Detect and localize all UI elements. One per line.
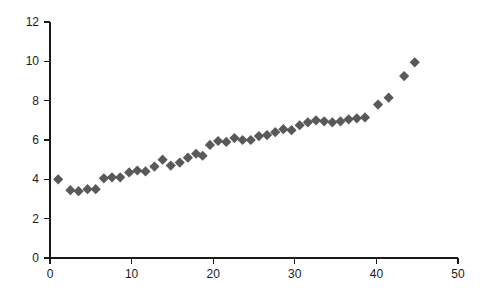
x-axis-ticks: [50, 258, 458, 264]
data-point: [124, 167, 134, 177]
data-point: [65, 185, 75, 195]
x-tick-label: 50: [451, 267, 465, 281]
data-point: [73, 186, 83, 196]
x-tick-label: 10: [125, 267, 139, 281]
data-point: [311, 115, 321, 125]
data-point: [175, 158, 185, 168]
data-point: [140, 166, 150, 176]
data-markers: [53, 57, 420, 196]
data-point: [149, 161, 159, 171]
data-point: [399, 71, 409, 81]
data-point: [115, 172, 125, 182]
data-point: [295, 120, 305, 130]
data-point: [303, 117, 313, 127]
x-tick-label: 0: [47, 267, 54, 281]
plot-area: 01020304050 024681012: [0, 0, 491, 294]
y-tick-label: 8: [32, 94, 39, 108]
data-point: [270, 127, 280, 137]
data-point: [384, 93, 394, 103]
data-point: [319, 116, 329, 126]
data-point: [352, 113, 362, 123]
data-point: [327, 117, 337, 127]
data-point: [158, 155, 168, 165]
data-point: [262, 130, 272, 140]
data-point: [344, 114, 354, 124]
x-axis-tick-labels: 01020304050: [47, 267, 465, 281]
data-point: [286, 125, 296, 135]
y-tick-label: 2: [32, 212, 39, 226]
data-point: [91, 184, 101, 194]
y-tick-label: 10: [26, 54, 40, 68]
y-tick-label: 12: [26, 15, 40, 29]
data-point: [410, 57, 420, 67]
data-point: [99, 173, 109, 183]
x-tick-label: 20: [207, 267, 221, 281]
x-tick-label: 40: [370, 267, 384, 281]
data-point: [278, 124, 288, 134]
data-point: [53, 174, 63, 184]
data-point: [373, 100, 383, 110]
data-point: [166, 160, 176, 170]
y-axis-tick-labels: 024681012: [26, 15, 40, 265]
data-point: [360, 112, 370, 122]
y-tick-label: 0: [32, 251, 39, 265]
scatter-chart: 01020304050 024681012: [0, 0, 491, 294]
y-tick-label: 4: [32, 172, 39, 186]
y-tick-label: 6: [32, 133, 39, 147]
x-tick-label: 30: [288, 267, 302, 281]
data-point: [335, 116, 345, 126]
y-axis-ticks: [44, 22, 50, 258]
data-point: [132, 165, 142, 175]
